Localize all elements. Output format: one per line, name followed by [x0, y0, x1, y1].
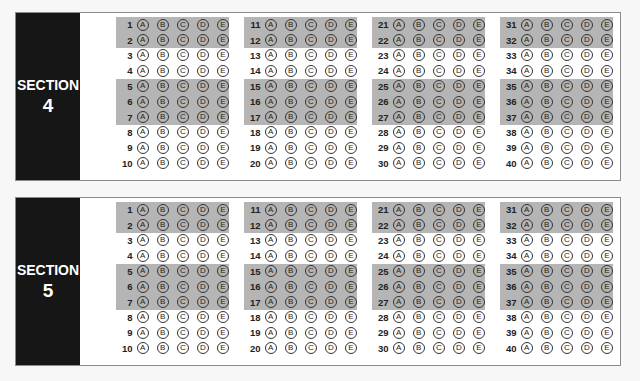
answer-bubble-a[interactable]: A — [265, 34, 277, 46]
answer-bubble-c[interactable]: C — [433, 80, 445, 92]
answer-bubble-e[interactable]: E — [601, 265, 613, 277]
answer-bubble-e[interactable]: E — [345, 49, 357, 61]
answer-bubble-d[interactable]: D — [197, 19, 209, 31]
answer-bubble-a[interactable]: A — [137, 49, 149, 61]
answer-bubble-e[interactable]: E — [601, 250, 613, 262]
answer-bubble-e[interactable]: E — [601, 234, 613, 246]
answer-bubble-c[interactable]: C — [305, 126, 317, 138]
answer-bubble-b[interactable]: B — [157, 80, 169, 92]
answer-bubble-a[interactable]: A — [137, 204, 149, 216]
answer-bubble-c[interactable]: C — [177, 65, 189, 77]
answer-bubble-e[interactable]: E — [473, 265, 485, 277]
answer-bubble-e[interactable]: E — [217, 281, 229, 293]
answer-bubble-c[interactable]: C — [177, 142, 189, 154]
answer-bubble-e[interactable]: E — [217, 126, 229, 138]
answer-bubble-a[interactable]: A — [393, 65, 405, 77]
answer-bubble-e[interactable]: E — [601, 311, 613, 323]
answer-bubble-c[interactable]: C — [305, 265, 317, 277]
answer-bubble-e[interactable]: E — [473, 204, 485, 216]
answer-bubble-b[interactable]: B — [285, 111, 297, 123]
answer-bubble-c[interactable]: C — [561, 34, 573, 46]
answer-bubble-b[interactable]: B — [285, 311, 297, 323]
answer-bubble-a[interactable]: A — [137, 96, 149, 108]
answer-bubble-c[interactable]: C — [177, 80, 189, 92]
answer-bubble-c[interactable]: C — [177, 327, 189, 339]
answer-bubble-e[interactable]: E — [601, 34, 613, 46]
answer-bubble-e[interactable]: E — [473, 80, 485, 92]
answer-bubble-a[interactable]: A — [521, 111, 533, 123]
answer-bubble-b[interactable]: B — [157, 219, 169, 231]
answer-bubble-e[interactable]: E — [217, 296, 229, 308]
answer-bubble-c[interactable]: C — [561, 142, 573, 154]
answer-bubble-e[interactable]: E — [345, 296, 357, 308]
answer-bubble-a[interactable]: A — [265, 157, 277, 169]
answer-bubble-b[interactable]: B — [541, 142, 553, 154]
answer-bubble-d[interactable]: D — [197, 96, 209, 108]
answer-bubble-d[interactable]: D — [581, 80, 593, 92]
answer-bubble-b[interactable]: B — [413, 327, 425, 339]
answer-bubble-b[interactable]: B — [157, 234, 169, 246]
answer-bubble-b[interactable]: B — [157, 49, 169, 61]
answer-bubble-d[interactable]: D — [325, 250, 337, 262]
answer-bubble-b[interactable]: B — [541, 342, 553, 354]
answer-bubble-a[interactable]: A — [265, 234, 277, 246]
answer-bubble-c[interactable]: C — [561, 234, 573, 246]
answer-bubble-b[interactable]: B — [157, 111, 169, 123]
answer-bubble-b[interactable]: B — [413, 342, 425, 354]
answer-bubble-e[interactable]: E — [217, 49, 229, 61]
answer-bubble-c[interactable]: C — [305, 234, 317, 246]
answer-bubble-a[interactable]: A — [521, 327, 533, 339]
answer-bubble-e[interactable]: E — [345, 19, 357, 31]
answer-bubble-c[interactable]: C — [177, 204, 189, 216]
answer-bubble-e[interactable]: E — [601, 126, 613, 138]
answer-bubble-d[interactable]: D — [325, 265, 337, 277]
answer-bubble-e[interactable]: E — [601, 19, 613, 31]
answer-bubble-a[interactable]: A — [393, 157, 405, 169]
answer-bubble-e[interactable]: E — [601, 342, 613, 354]
answer-bubble-e[interactable]: E — [473, 157, 485, 169]
answer-bubble-c[interactable]: C — [177, 265, 189, 277]
answer-bubble-a[interactable]: A — [137, 311, 149, 323]
answer-bubble-d[interactable]: D — [581, 34, 593, 46]
answer-bubble-e[interactable]: E — [473, 281, 485, 293]
answer-bubble-b[interactable]: B — [413, 296, 425, 308]
answer-bubble-b[interactable]: B — [541, 126, 553, 138]
answer-bubble-a[interactable]: A — [265, 96, 277, 108]
answer-bubble-e[interactable]: E — [345, 80, 357, 92]
answer-bubble-c[interactable]: C — [305, 34, 317, 46]
answer-bubble-a[interactable]: A — [521, 281, 533, 293]
answer-bubble-a[interactable]: A — [393, 311, 405, 323]
answer-bubble-b[interactable]: B — [413, 157, 425, 169]
answer-bubble-c[interactable]: C — [433, 311, 445, 323]
answer-bubble-c[interactable]: C — [561, 311, 573, 323]
answer-bubble-b[interactable]: B — [285, 126, 297, 138]
answer-bubble-b[interactable]: B — [157, 65, 169, 77]
answer-bubble-d[interactable]: D — [453, 327, 465, 339]
answer-bubble-e[interactable]: E — [473, 250, 485, 262]
answer-bubble-e[interactable]: E — [345, 96, 357, 108]
answer-bubble-e[interactable]: E — [217, 111, 229, 123]
answer-bubble-b[interactable]: B — [157, 342, 169, 354]
answer-bubble-a[interactable]: A — [521, 342, 533, 354]
answer-bubble-a[interactable]: A — [393, 234, 405, 246]
answer-bubble-e[interactable]: E — [345, 281, 357, 293]
answer-bubble-a[interactable]: A — [393, 296, 405, 308]
answer-bubble-c[interactable]: C — [305, 19, 317, 31]
answer-bubble-e[interactable]: E — [601, 96, 613, 108]
answer-bubble-d[interactable]: D — [197, 265, 209, 277]
answer-bubble-e[interactable]: E — [217, 65, 229, 77]
answer-bubble-d[interactable]: D — [453, 296, 465, 308]
answer-bubble-d[interactable]: D — [581, 142, 593, 154]
answer-bubble-a[interactable]: A — [393, 204, 405, 216]
answer-bubble-c[interactable]: C — [177, 126, 189, 138]
answer-bubble-e[interactable]: E — [345, 219, 357, 231]
answer-bubble-d[interactable]: D — [581, 296, 593, 308]
answer-bubble-b[interactable]: B — [541, 281, 553, 293]
answer-bubble-e[interactable]: E — [217, 19, 229, 31]
answer-bubble-b[interactable]: B — [157, 204, 169, 216]
answer-bubble-e[interactable]: E — [345, 342, 357, 354]
answer-bubble-a[interactable]: A — [137, 80, 149, 92]
answer-bubble-b[interactable]: B — [285, 234, 297, 246]
answer-bubble-e[interactable]: E — [345, 250, 357, 262]
answer-bubble-c[interactable]: C — [561, 19, 573, 31]
